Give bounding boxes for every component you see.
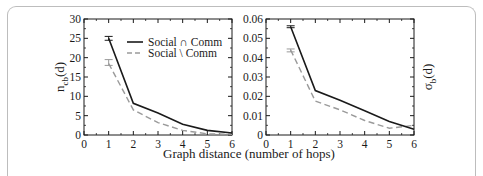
- y-tick-label: 30: [70, 13, 82, 25]
- legend: Social ∩ Comm Social \ Comm: [127, 36, 222, 59]
- y-tick-label: 0.05: [243, 32, 263, 44]
- x-tick-label: 2: [130, 138, 136, 150]
- x-axis-title: Graph distance (number of hops): [163, 146, 335, 161]
- x-tick-label: 4: [362, 138, 368, 150]
- plot-right-sigma-b: 012345600.010.020.030.040.050.06σb(d): [243, 13, 438, 150]
- y-tick-label: 0.03: [243, 71, 263, 83]
- y-tick-label: 0: [75, 129, 81, 141]
- y-tick-label: 5: [75, 110, 81, 122]
- plot-left-n-cb: 0123456051015202530ncb(d): [52, 13, 235, 150]
- y-axis-title: ncb(d): [52, 62, 70, 92]
- x-tick-label: 5: [386, 138, 392, 150]
- x-tick-label: 3: [155, 138, 161, 150]
- y-tick-label: 0.02: [243, 90, 263, 102]
- y-tick-label: 15: [70, 71, 82, 83]
- y-axis-title: σb(d): [420, 64, 438, 91]
- y-tick-label: 25: [70, 32, 82, 44]
- y-tick-label: 10: [70, 90, 82, 102]
- figure-canvas: 0123456051015202530ncb(d) 012345600.010.…: [0, 0, 483, 176]
- y-tick-label: 20: [70, 52, 82, 64]
- x-tick-label: 3: [337, 138, 343, 150]
- x-tick-label: 0: [81, 138, 87, 150]
- x-tick-label: 1: [106, 138, 112, 150]
- axes-box: [266, 19, 414, 135]
- series-line-intersection: [291, 27, 414, 129]
- series-line-difference: [109, 63, 232, 134]
- legend-label-difference: Social \ Comm: [148, 47, 217, 59]
- series-line-difference: [291, 50, 414, 128]
- y-tick-label: 0.04: [243, 52, 263, 64]
- y-tick-label: 0.01: [243, 110, 263, 122]
- x-tick-label: 6: [411, 138, 417, 150]
- y-tick-label: 0: [257, 129, 263, 141]
- y-tick-label: 0.06: [243, 13, 263, 25]
